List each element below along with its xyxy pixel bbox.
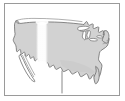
glare-streak-head	[36, 19, 49, 25]
region-lake-ontario[interactable]	[97, 36, 103, 38]
us-map-graphic[interactable]: Small grayscale outline map of the conti…	[0, 0, 125, 101]
glare-streak	[36, 22, 48, 67]
glare-streak-tip	[36, 61, 48, 71]
region-lake-michigan[interactable]	[82, 31, 86, 40]
region-lake-erie[interactable]	[90, 38, 98, 41]
map-thumbnail[interactable]: Small grayscale outline map of the conti…	[0, 0, 125, 101]
